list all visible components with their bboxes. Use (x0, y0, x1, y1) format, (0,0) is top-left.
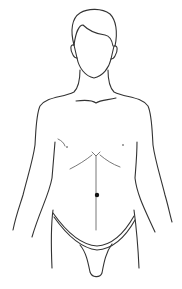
chest-details (58, 139, 124, 230)
torso-sides (51, 210, 139, 268)
shoulders (13, 70, 172, 230)
underwear (53, 213, 135, 277)
torso-figure (0, 0, 182, 289)
navel-marker (95, 193, 99, 197)
arms (32, 142, 155, 237)
head (71, 9, 117, 78)
